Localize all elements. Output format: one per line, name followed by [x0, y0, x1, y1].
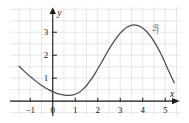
- x-tick-label: 3: [118, 105, 123, 115]
- y-axis-tick-labels: 123: [44, 27, 49, 83]
- y-axis-label: y: [56, 8, 62, 18]
- x-tick-label: 1: [73, 105, 78, 115]
- function-graph-figure: −1012345 123 x y ℬ f: [0, 0, 189, 123]
- x-tick-label: 5: [163, 105, 168, 115]
- plot-svg: −1012345 123 x y ℬ f: [0, 0, 189, 123]
- x-tick-label: 4: [141, 105, 146, 115]
- y-tick-label: 2: [44, 50, 49, 60]
- x-tick-label: 2: [96, 105, 101, 115]
- x-tick-label: 0: [51, 105, 56, 115]
- y-tick-label: 1: [44, 73, 49, 83]
- x-axis-label: x: [169, 89, 175, 99]
- x-tick-label: −1: [25, 105, 35, 115]
- y-tick-label: 3: [44, 27, 49, 37]
